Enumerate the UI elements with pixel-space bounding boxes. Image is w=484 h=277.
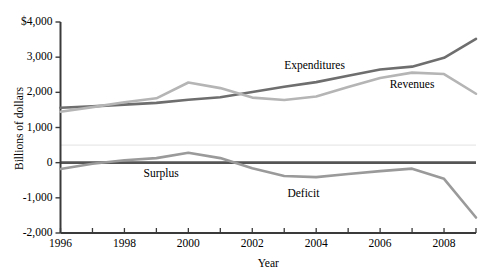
series-label-surplus: Surplus [144, 167, 179, 179]
chart-plot-svg [0, 0, 484, 277]
y-tick-label: 1,000 [27, 122, 53, 134]
y-tick-label: 0 [47, 157, 53, 169]
x-tick-label: 2004 [296, 238, 336, 250]
y-tick-label: 2,000 [27, 86, 53, 98]
x-tick-label: 2008 [424, 238, 464, 250]
x-tick-label: 1996 [41, 238, 81, 250]
series-label-expenditures: Expenditures [284, 59, 345, 71]
series-label-revenues: Revenues [390, 78, 435, 90]
x-tick-label: 1998 [104, 238, 144, 250]
x-axis-title: Year [238, 257, 298, 269]
y-tick-label: 3,000 [27, 51, 53, 63]
y-axis-title: Billions of dollars [13, 86, 25, 169]
y-tick-label: -1,000 [23, 192, 53, 204]
x-tick-label: 2000 [168, 238, 208, 250]
x-tick-label: 2006 [360, 238, 400, 250]
series-label-deficit: Deficit [287, 187, 319, 199]
chart-container: Billions of dollars Year $4,0003,0002,00… [0, 0, 484, 277]
x-tick-label: 2002 [232, 238, 272, 250]
y-tick-label: $4,000 [21, 16, 53, 28]
